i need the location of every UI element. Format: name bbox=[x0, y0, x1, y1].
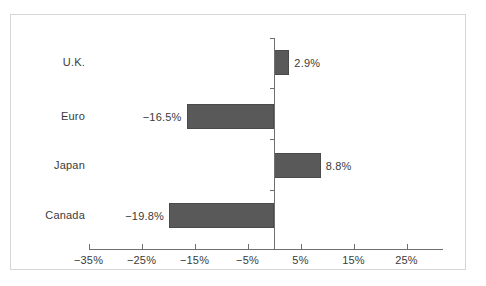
value-label-canada: −19.8% bbox=[125, 210, 164, 222]
bar-canada bbox=[169, 203, 274, 228]
zero-axis-line bbox=[274, 38, 275, 250]
x-tick--15 bbox=[195, 244, 196, 249]
x-tick--25 bbox=[142, 244, 143, 249]
x-axis-line bbox=[89, 249, 443, 250]
category-label-canada: Canada bbox=[20, 209, 85, 221]
category-tick-3 bbox=[270, 190, 275, 191]
category-label-japan: Japan bbox=[20, 159, 85, 171]
bar-japan bbox=[274, 153, 321, 178]
x-tick-label-25: 25% bbox=[395, 254, 418, 266]
x-tick-5 bbox=[301, 244, 302, 249]
bar-uk bbox=[274, 50, 289, 75]
x-tick-label--25: −25% bbox=[127, 254, 156, 266]
x-tick--35 bbox=[89, 244, 90, 249]
x-tick-15 bbox=[354, 244, 355, 249]
bar-euro bbox=[187, 104, 274, 129]
value-label-uk: 2.9% bbox=[294, 57, 320, 69]
x-tick-label--35: −35% bbox=[74, 254, 103, 266]
category-tick-2 bbox=[270, 139, 275, 140]
plot-area: U.K. Euro Japan Canada 2.9% −16.5% 8.8% … bbox=[0, 0, 486, 286]
category-tick-0 bbox=[270, 38, 275, 39]
category-label-uk: U.K. bbox=[20, 56, 85, 68]
x-tick-label-15: 15% bbox=[342, 254, 365, 266]
x-tick-label-5: 5% bbox=[292, 254, 308, 266]
x-tick-25 bbox=[407, 244, 408, 249]
value-label-japan: 8.8% bbox=[326, 160, 352, 172]
x-tick-label--5: −5% bbox=[236, 254, 259, 266]
x-tick--5 bbox=[248, 244, 249, 249]
category-label-euro: Euro bbox=[20, 110, 85, 122]
category-tick-1 bbox=[270, 88, 275, 89]
chart-figure: U.K. Euro Japan Canada 2.9% −16.5% 8.8% … bbox=[0, 0, 486, 286]
x-tick-label--15: −15% bbox=[180, 254, 209, 266]
value-label-euro: −16.5% bbox=[143, 111, 182, 123]
